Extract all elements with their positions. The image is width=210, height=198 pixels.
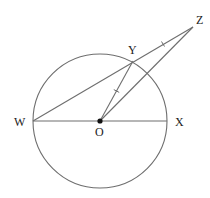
geometry-diagram: W O X Y Z xyxy=(0,0,210,198)
label-x: X xyxy=(175,115,184,129)
point-o xyxy=(97,118,102,123)
label-w: W xyxy=(14,115,26,129)
label-y: Y xyxy=(128,43,137,57)
label-z: Z xyxy=(196,13,203,27)
label-o: O xyxy=(95,125,104,139)
segment-wz xyxy=(33,27,193,121)
